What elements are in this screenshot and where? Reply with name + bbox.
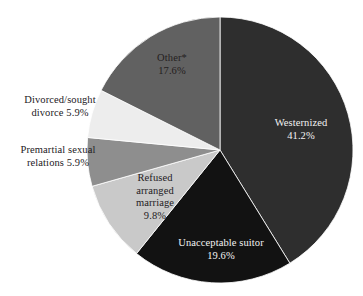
pie-slice-label-refused-arranged-marriage: Refused arranged marriage 9.8%	[120, 172, 190, 222]
pie-slice-label-westernized: Westernized 41.2%	[258, 117, 344, 142]
pie-slice-label-divorced-sought-divorce: Divorced/sought divorce 5.9%	[6, 94, 114, 119]
pie-slice-label-unacceptable-suitor: Unacceptable suitor 19.6%	[157, 237, 285, 262]
pie-chart: Westernized 41.2% Unacceptable suitor 19…	[0, 0, 363, 296]
pie-slice-label-other: Other* 17.6%	[136, 52, 208, 77]
pie-slice-label-premartial-sexual-relations: Premartial sexual relations 5.9%	[2, 144, 114, 169]
